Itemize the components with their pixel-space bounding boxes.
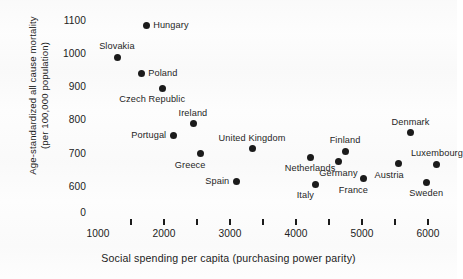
data-point-marker — [197, 150, 204, 157]
data-point-marker — [170, 132, 177, 139]
data-point-label: Ireland — [179, 108, 208, 118]
data-point-label: Luxembourg — [411, 148, 463, 158]
y-axis-tick-label: 700 — [52, 148, 86, 159]
data-point-marker — [312, 181, 319, 188]
x-axis-tick-mark — [295, 219, 297, 225]
x-axis-title: Social spending per capita (purchasing p… — [0, 252, 457, 264]
data-point-marker — [114, 54, 121, 61]
data-point-marker — [407, 129, 414, 136]
data-point-marker — [249, 145, 256, 152]
x-axis-tick-mark — [229, 219, 231, 225]
data-point-marker — [233, 178, 240, 185]
x-axis-tick-label: 1000 — [74, 228, 122, 239]
x-axis-tick-label: 5000 — [338, 228, 386, 239]
data-point-label: Hungary — [153, 20, 188, 30]
y-axis-title: Age-standardized all cause mortality (pe… — [27, 0, 50, 196]
data-point-label: Poland — [148, 68, 177, 78]
y-axis-title-line-2: (per 100,000 population) — [38, 0, 50, 196]
x-axis-tick-mark — [394, 219, 396, 225]
x-axis-tick-mark — [361, 219, 363, 225]
x-axis-tick-mark — [130, 219, 132, 225]
y-axis-tick-label: 600 — [52, 181, 86, 192]
data-point-label: Austria — [374, 170, 403, 180]
x-axis-tick-mark — [163, 219, 165, 225]
data-point-marker — [143, 22, 150, 29]
data-point-label: France — [339, 185, 368, 195]
y-axis-tick-label: 0 — [52, 207, 86, 218]
plot-area: HungarySlovakiaPolandCzech RepublicIrela… — [88, 12, 448, 204]
data-point-label: Finland — [330, 135, 361, 145]
data-point-label: Slovakia — [99, 41, 135, 51]
data-point-marker — [138, 70, 145, 77]
data-point-marker — [395, 160, 402, 167]
x-axis-tick-mark — [427, 219, 429, 225]
data-point-marker — [342, 148, 349, 155]
data-point-label: Denmark — [392, 117, 430, 127]
x-axis-tick-label: 3000 — [206, 228, 254, 239]
data-point-label: Germany — [319, 168, 357, 178]
data-point-label: United Kingdom — [219, 133, 286, 143]
data-point-label: Sweden — [409, 188, 443, 198]
data-point-label: Spain — [205, 176, 229, 186]
x-axis-tick-label: 6000 — [404, 228, 452, 239]
x-axis-tick-label: 4000 — [272, 228, 320, 239]
data-point-marker — [433, 161, 440, 168]
data-point-marker — [335, 158, 342, 165]
data-point-label: Greece — [175, 160, 206, 170]
y-axis-title-line-1: Age-standardized all cause mortality — [27, 0, 39, 196]
data-point-marker — [307, 154, 314, 161]
x-axis-tick-mark — [196, 219, 198, 225]
data-point-marker — [423, 179, 430, 186]
x-axis-tick-mark — [328, 219, 330, 225]
data-point-label: Italy — [297, 190, 314, 200]
data-point-marker — [190, 120, 197, 127]
y-axis-tick-label: 900 — [52, 81, 86, 92]
data-point-label: Portugal — [131, 130, 166, 140]
y-axis-tick-label: 800 — [52, 114, 86, 125]
data-point-marker — [159, 85, 166, 92]
data-point-marker — [360, 175, 367, 182]
x-axis-tick-mark — [262, 219, 264, 225]
data-point-label: Czech Republic — [119, 94, 185, 104]
x-axis-tick-label: 2000 — [140, 228, 188, 239]
y-axis-tick-label: 1000 — [52, 48, 86, 59]
y-axis-tick-label: 1100 — [52, 15, 86, 26]
